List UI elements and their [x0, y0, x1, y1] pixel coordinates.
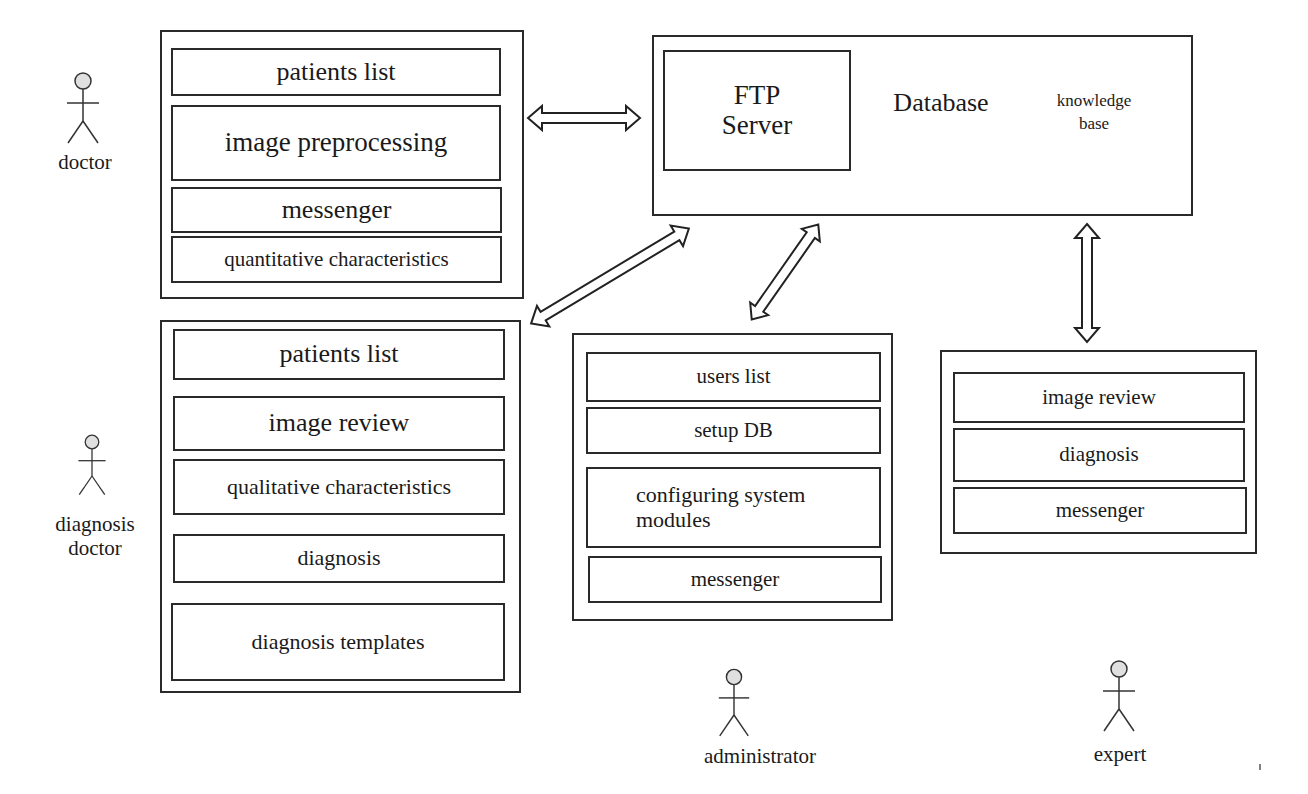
diagnosis-server-arrow-icon [525, 218, 695, 333]
admin-configuring-system-modules-module[interactable]: configuring system modules [586, 467, 881, 548]
ftp-server-box[interactable]: FTP Server [663, 50, 851, 171]
admin-configuring-line2: modules [636, 508, 711, 532]
expert-image-review-module[interactable]: image review [953, 372, 1245, 423]
admin-messenger-module[interactable]: messenger [588, 556, 882, 603]
doctor-quantitative-characteristics-module[interactable]: quantitative characteristics [171, 236, 502, 283]
knowledge-base-label: knowledge base [1028, 90, 1160, 136]
diagnosis-patients-list-module[interactable]: patients list [173, 329, 505, 380]
admin-users-list-module[interactable]: users list [586, 352, 881, 402]
actor-label-doctor: doctor [38, 150, 132, 174]
database-label: Database [877, 88, 1005, 118]
knowledge-base-line2: base [1028, 113, 1160, 136]
diagnosis-templates-module[interactable]: diagnosis templates [171, 603, 505, 681]
actor-label-administrator: administrator [680, 744, 840, 768]
diagnosis-diagnosis-module[interactable]: diagnosis [173, 534, 505, 583]
diagnosis-image-review-module[interactable]: image review [173, 396, 505, 451]
expert-diagnosis-module[interactable]: diagnosis [953, 428, 1245, 482]
administrator-actor-icon [719, 669, 749, 736]
knowledge-base-line1: knowledge [1028, 90, 1160, 113]
diagnosis-doctor-actor-icon [78, 435, 105, 495]
expert-actor-icon [1103, 661, 1135, 731]
actor-label-diagnosis-doctor-line1: diagnosis [40, 512, 150, 536]
actor-label-diagnosis-doctor-line2: doctor [40, 536, 150, 560]
admin-server-arrow-icon [743, 218, 828, 326]
actor-label-diagnosis-doctor: diagnosis doctor [40, 512, 150, 560]
ftp-server-line1: FTP [734, 81, 781, 111]
doctor-messenger-module[interactable]: messenger [171, 187, 502, 233]
ftp-server-line2: Server [722, 111, 792, 141]
admin-configuring-line1: configuring system [636, 483, 805, 507]
doctor-image-preprocessing-module[interactable]: image preprocessing [171, 105, 501, 181]
doctor-server-arrow-icon [528, 106, 640, 130]
doctor-patients-list-module[interactable]: patients list [171, 48, 501, 96]
expert-messenger-module[interactable]: messenger [953, 487, 1247, 534]
actor-label-expert: expert [1070, 742, 1170, 766]
doctor-actor-icon [67, 73, 99, 143]
diagnosis-qualitative-characteristics-module[interactable]: qualitative characteristics [173, 459, 505, 515]
expert-server-arrow-icon [1075, 224, 1099, 342]
admin-setup-db-module[interactable]: setup DB [586, 407, 881, 454]
